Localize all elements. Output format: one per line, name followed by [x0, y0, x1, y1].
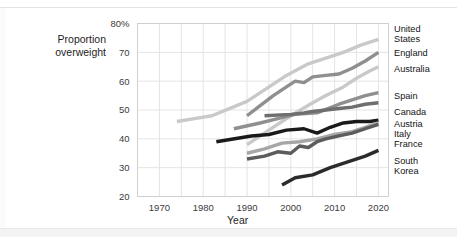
- x-tick-label: 1970: [149, 202, 170, 213]
- legend-item-spain: Spain: [394, 91, 418, 101]
- y-tick-label: 30: [119, 162, 130, 173]
- x-tick-label: 1980: [193, 202, 214, 213]
- legend-item-france: France: [394, 139, 423, 149]
- x-tick-label: 1990: [236, 202, 257, 213]
- legend-label-line2: Korea: [394, 166, 419, 176]
- legend-item-canada: Canada: [394, 107, 426, 117]
- legend-label-line1: Austria: [394, 119, 423, 129]
- legend-label-line1: United: [394, 24, 421, 34]
- data-series-group: [177, 39, 379, 185]
- legend-label-line1: Italy: [394, 129, 411, 139]
- y-tick-label: 60: [119, 76, 130, 87]
- plot-area: 80%706050403020 197019801990200020102020: [0, 0, 457, 237]
- x-tick-label: 2000: [280, 202, 301, 213]
- legend-item-austria: Austria: [394, 119, 423, 129]
- x-tick-labels: 197019801990200020102020: [149, 202, 389, 213]
- y-tick-label: 70: [119, 47, 130, 58]
- legend-item-united: UnitedStates: [394, 24, 421, 45]
- y-tick-label: 50: [119, 104, 130, 115]
- legend-item-australia: Australia: [394, 64, 430, 74]
- x-tick-label: 2010: [324, 202, 345, 213]
- y-tick-label: 20: [119, 191, 130, 202]
- y-tick-label: 80%: [110, 18, 130, 29]
- legend-item-italy: Italy: [394, 129, 411, 139]
- legend-label-line2: States: [394, 34, 421, 44]
- legend-label-line1: France: [394, 139, 423, 149]
- legend-label-line1: Australia: [394, 64, 430, 74]
- legend-label-line1: Spain: [394, 91, 418, 101]
- legend-label-line1: South: [394, 156, 419, 166]
- legend-label-line1: Canada: [394, 107, 426, 117]
- series-line-canada: [265, 103, 379, 116]
- legend-label-line1: England: [394, 48, 428, 58]
- y-tick-label: 40: [119, 133, 130, 144]
- chart-figure: Proportion overweight Year 80%7060504030…: [0, 0, 457, 237]
- legend-item-south: SouthKorea: [394, 156, 419, 177]
- x-tick-label: 2020: [368, 202, 389, 213]
- legend-item-england: England: [394, 48, 428, 58]
- y-tick-labels: 80%706050403020: [110, 18, 130, 202]
